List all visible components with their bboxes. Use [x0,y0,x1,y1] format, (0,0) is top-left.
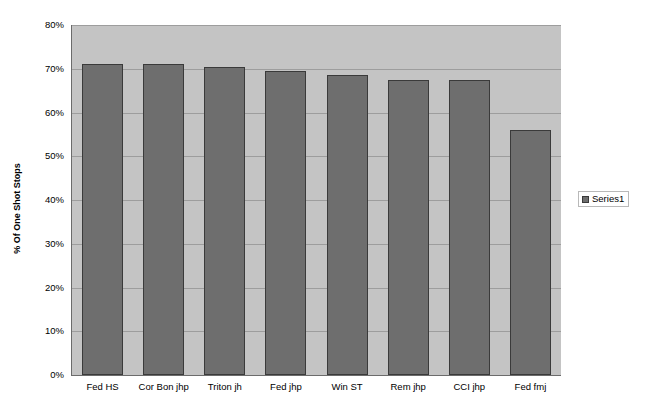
series1-swatch [582,196,589,203]
legend-label: Series1 [592,194,624,204]
x-axis-tick-labels: Fed HSCor Bon jhpTriton jhFed jhpWin STR… [72,381,561,399]
x-tick-label: Fed jhp [255,381,316,399]
x-tick-label: Fed HS [72,381,133,399]
bar-slot [72,25,133,375]
bar-slot [500,25,561,375]
x-tick-label: Cor Bon jhp [133,381,194,399]
x-tick-label: Triton jh [194,381,255,399]
bar[interactable] [265,71,306,375]
bar[interactable] [388,80,429,375]
y-tick-label: 70% [24,64,64,74]
bar-slot [439,25,500,375]
x-tick-label: Rem jhp [378,381,439,399]
x-tick-label: Win ST [317,381,378,399]
x-tick-label: CCI jhp [439,381,500,399]
bar[interactable] [82,64,123,375]
y-tick-label: 0% [24,370,64,380]
bar[interactable] [510,130,551,375]
legend: Series1 [578,191,629,207]
bars-layer [72,25,561,375]
bar-slot [378,25,439,375]
bar-slot [317,25,378,375]
bar-slot [194,25,255,375]
bar-slot [133,25,194,375]
y-tick-label: 10% [24,326,64,336]
y-tick-label: 50% [24,151,64,161]
bar[interactable] [143,64,184,375]
y-tick-label: 80% [24,20,64,30]
bar[interactable] [204,67,245,375]
y-tick-label: 20% [24,283,64,293]
bar-chart: % Of One Shot Stops 80% 70% 60% 50% 40% … [0,0,659,417]
bar[interactable] [449,80,490,375]
y-axis-tick-labels: 80% 70% 60% 50% 40% 30% 20% 10% 0% [24,25,64,375]
bar[interactable] [327,75,368,375]
x-tick-label: Fed fmj [500,381,561,399]
y-tick-label: 40% [24,195,64,205]
y-tick-label: 30% [24,239,64,249]
plot-area [71,25,561,376]
y-tick-label: 60% [24,108,64,118]
bar-slot [255,25,316,375]
